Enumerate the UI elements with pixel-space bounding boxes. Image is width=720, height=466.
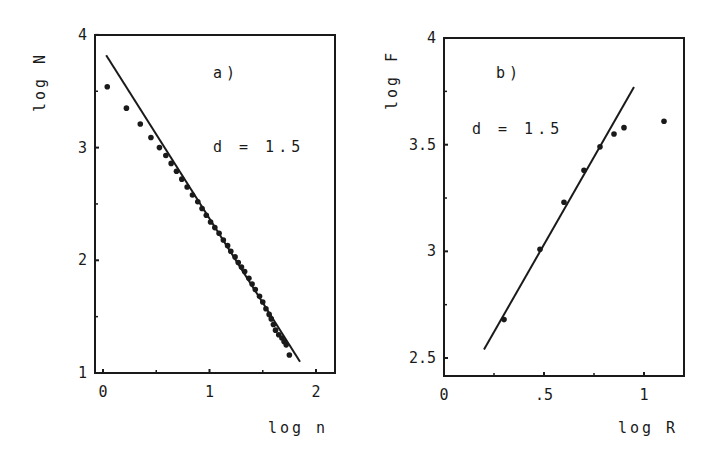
plot-frame-a xyxy=(95,35,335,373)
data-points-a xyxy=(104,84,292,358)
y-tick-label: 3 xyxy=(78,139,87,157)
data-point xyxy=(252,287,258,293)
data-point xyxy=(228,248,234,254)
y-tick-label: 3 xyxy=(427,242,436,260)
data-point xyxy=(137,121,143,127)
data-point xyxy=(611,131,617,137)
x-tick-label: 1 xyxy=(205,383,214,401)
data-point xyxy=(260,299,266,305)
y-tick-label: 3.5 xyxy=(409,136,436,154)
x-axis-title-a: log n xyxy=(268,419,328,437)
data-point xyxy=(273,327,279,333)
data-point xyxy=(204,212,210,218)
x-axis-title-b: log R xyxy=(618,419,678,437)
annotation-b: d = 1.5 xyxy=(472,120,563,138)
data-point xyxy=(168,161,174,167)
data-point xyxy=(661,118,667,124)
data-point xyxy=(212,225,218,231)
data-point xyxy=(174,168,180,174)
data-point xyxy=(199,206,205,212)
data-point xyxy=(221,237,227,243)
data-point xyxy=(581,167,587,173)
data-point xyxy=(104,84,110,90)
data-point xyxy=(148,135,154,141)
annotation-a: d = 1.5 xyxy=(213,138,304,156)
data-point xyxy=(239,264,245,270)
panel-label-b: b) xyxy=(496,64,522,82)
data-point xyxy=(263,306,269,312)
data-point xyxy=(216,230,222,236)
plot-frame-b xyxy=(444,38,684,376)
data-point xyxy=(597,144,603,150)
data-point xyxy=(235,260,241,266)
data-point xyxy=(246,276,252,282)
y-axis-title-b: log F xyxy=(383,50,401,110)
data-point xyxy=(537,246,543,252)
x-tick-label: 0 xyxy=(439,386,448,404)
data-point xyxy=(179,176,185,182)
data-point xyxy=(163,153,169,159)
x-tick-label: .5 xyxy=(535,386,553,404)
y-axis-title-a: log N xyxy=(31,52,49,112)
data-point xyxy=(190,192,196,198)
y-tick-label: 1 xyxy=(78,364,87,382)
data-point xyxy=(561,199,567,205)
data-points-b xyxy=(501,118,667,322)
x-tick-label: 0 xyxy=(98,383,107,401)
x-tick-label: 2 xyxy=(311,383,320,401)
data-point xyxy=(124,105,130,111)
y-axis-ticks-b: 2.533.54 xyxy=(409,29,448,367)
data-point xyxy=(283,342,289,348)
data-point xyxy=(208,219,214,225)
data-point xyxy=(287,352,293,358)
data-point xyxy=(621,125,627,131)
data-point xyxy=(157,145,163,151)
data-point xyxy=(242,269,248,275)
y-tick-label: 2.5 xyxy=(409,349,436,367)
data-point xyxy=(271,322,277,328)
y-tick-label: 2 xyxy=(78,251,87,269)
chart-panel-a: 1234 012 a) d = 1.5 log n log N xyxy=(31,26,335,437)
data-point xyxy=(268,316,274,322)
panel-label-a: a) xyxy=(213,64,239,82)
data-point xyxy=(225,243,231,249)
data-point xyxy=(249,281,255,287)
data-point xyxy=(501,317,507,323)
y-tick-label: 4 xyxy=(78,26,87,44)
data-point xyxy=(232,254,238,260)
figure: 1234 012 a) d = 1.5 log n log N 2.533.54… xyxy=(0,0,720,466)
chart-panel-b: 2.533.54 0.51 b) d = 1.5 log R log F xyxy=(383,29,684,437)
data-point xyxy=(195,199,201,205)
x-tick-label: 1 xyxy=(639,386,648,404)
data-point xyxy=(257,294,263,300)
data-point xyxy=(184,184,190,190)
y-tick-label: 4 xyxy=(427,29,436,47)
